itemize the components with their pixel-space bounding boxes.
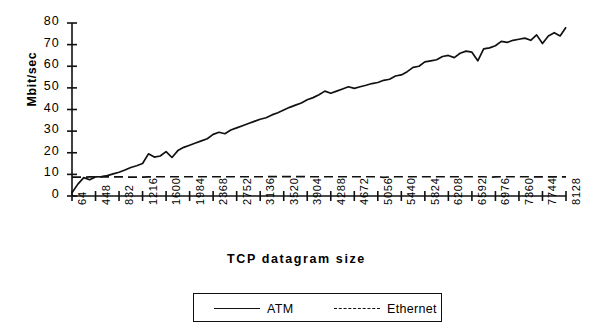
x-tick-label: 3904 [311, 177, 323, 205]
chart-legend: ATMEthernet [193, 293, 442, 322]
x-tick-label: 4288 [335, 177, 347, 205]
x-tick-label: 5056 [382, 177, 394, 205]
y-axis [67, 23, 77, 196]
x-tick-label: 1984 [194, 177, 206, 205]
data-series-group [72, 27, 566, 192]
x-tick-label: 2368 [217, 177, 229, 205]
y-tick-label: 40 [30, 101, 60, 115]
y-tick-label: 60 [30, 57, 60, 71]
x-tick-label: 5824 [429, 177, 441, 205]
legend-item-ethernet: Ethernet [334, 294, 437, 323]
x-tick-label: 7744 [546, 177, 558, 205]
chart-figure: Mbit/sec 01020304050607080 6444883212161… [0, 0, 593, 333]
y-tick-label: 30 [30, 122, 60, 136]
legend-item-atm: ATM [214, 294, 293, 323]
x-tick-label: 7360 [523, 177, 535, 205]
x-tick-label: 6208 [452, 177, 464, 205]
x-tick-label: 3520 [288, 177, 300, 205]
x-tick-label: 3136 [264, 177, 276, 205]
x-tick-label: 8128 [570, 177, 582, 205]
y-tick-label: 10 [30, 165, 60, 179]
x-tick-label: 4672 [358, 177, 370, 205]
x-tick-label: 1600 [170, 177, 182, 205]
series-line-atm [72, 27, 566, 192]
x-tick-label: 64 [76, 191, 88, 205]
y-tick-label: 20 [30, 144, 60, 158]
x-axis-title: TCP datagram size [0, 252, 593, 266]
legend-label: ATM [267, 302, 293, 316]
x-tick-label: 6592 [476, 177, 488, 205]
y-tick-label: 80 [30, 14, 60, 28]
x-tick-label: 1216 [147, 177, 159, 205]
y-tick-label: 50 [30, 79, 60, 93]
legend-label: Ethernet [387, 302, 437, 316]
x-tick-label: 832 [123, 184, 135, 205]
y-tick-label: 70 [30, 36, 60, 50]
y-tick-label: 0 [30, 187, 60, 201]
x-tick-label: 5440 [405, 177, 417, 205]
legend-line-sample-dashed [334, 304, 380, 314]
legend-line-sample-solid [214, 304, 260, 314]
plot-area [0, 0, 593, 333]
x-tick-label: 448 [100, 184, 112, 205]
x-tick-label: 2752 [241, 177, 253, 205]
x-tick-label: 6976 [499, 177, 511, 205]
